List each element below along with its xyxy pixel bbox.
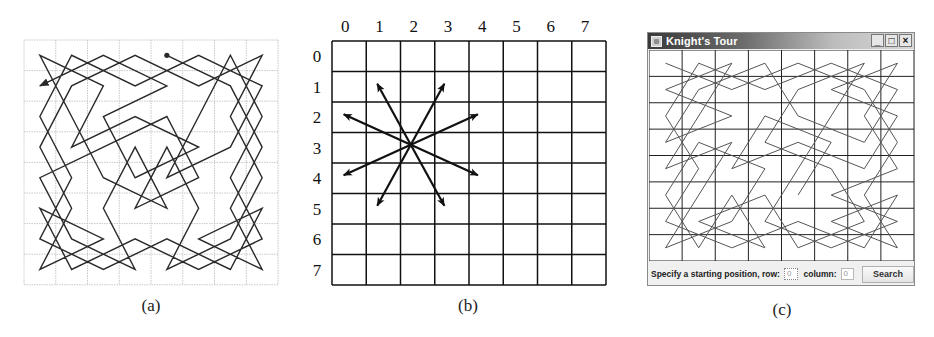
starting-position-label: Specify a starting position, row: — [651, 269, 780, 279]
svg-text:6: 6 — [546, 17, 555, 36]
svg-text:3: 3 — [444, 17, 453, 36]
svg-text:2: 2 — [409, 17, 418, 36]
panel-a — [20, 36, 284, 290]
svg-text:5: 5 — [313, 200, 322, 219]
column-input[interactable]: 0 — [841, 268, 855, 280]
panel-b: 0123456701234567 — [305, 8, 615, 290]
knights-tour-window: Knight's Tour _ □ × Specify a starting p… — [647, 32, 915, 286]
knights-tour-board-a — [20, 36, 284, 290]
svg-text:7: 7 — [581, 17, 590, 36]
svg-text:4: 4 — [313, 169, 322, 188]
svg-text:1: 1 — [375, 17, 384, 36]
knight-move-arrow — [411, 84, 445, 145]
caption-c: (c) — [762, 300, 802, 320]
minimize-button[interactable]: _ — [871, 34, 884, 47]
knight-move-arrow — [411, 114, 478, 145]
title-bar[interactable]: Knight's Tour _ □ × — [648, 33, 914, 49]
window-title: Knight's Tour — [666, 35, 738, 47]
knight-move-arrow — [377, 145, 411, 206]
caption-b: (b) — [448, 296, 488, 316]
knight-move-arrow — [377, 84, 411, 145]
svg-text:0: 0 — [313, 47, 322, 66]
svg-text:7: 7 — [313, 261, 322, 280]
column-label: column: — [804, 269, 837, 279]
svg-text:3: 3 — [313, 139, 322, 158]
svg-text:6: 6 — [313, 230, 322, 249]
app-icon — [651, 36, 662, 47]
controls-bar: Specify a starting position, row: 0 colu… — [648, 263, 914, 285]
maximize-button[interactable]: □ — [885, 34, 898, 47]
svg-text:4: 4 — [478, 17, 487, 36]
row-input[interactable]: 0 — [784, 268, 798, 280]
svg-text:0: 0 — [341, 17, 350, 36]
knight-move-arrow — [411, 145, 478, 176]
search-button[interactable]: Search — [862, 266, 914, 283]
close-button[interactable]: × — [899, 34, 912, 47]
svg-text:5: 5 — [512, 17, 521, 36]
svg-text:2: 2 — [313, 108, 322, 127]
svg-text:1: 1 — [313, 78, 322, 97]
caption-a: (a) — [131, 296, 171, 316]
knight-moves-board: 0123456701234567 — [305, 8, 615, 290]
knights-tour-board-c — [649, 50, 914, 261]
knight-move-arrow — [411, 145, 445, 206]
